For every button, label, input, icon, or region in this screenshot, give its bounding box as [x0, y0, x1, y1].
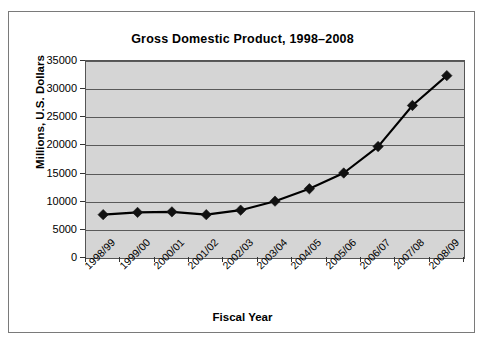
data-series-line: [86, 61, 464, 258]
plot-area: [85, 60, 465, 259]
data-point-marker: [270, 196, 280, 206]
data-point-marker: [167, 207, 177, 217]
data-point-marker: [201, 209, 211, 219]
x-axis-title: Fiscal Year: [9, 311, 476, 323]
data-point-marker: [235, 205, 245, 215]
y-axis-tick-marks: [9, 12, 85, 272]
chart-figure-frame: Gross Domestic Product, 1998–2008 Millio…: [8, 11, 475, 333]
x-tick-mark: [463, 257, 464, 262]
series-markers: [98, 70, 452, 219]
series-polyline: [103, 76, 447, 215]
data-point-marker: [304, 184, 314, 194]
data-point-marker: [132, 207, 142, 217]
data-point-marker: [98, 209, 108, 219]
